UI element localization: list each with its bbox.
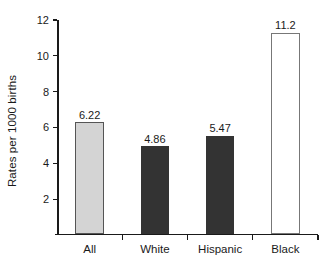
- bar: 6.22: [75, 122, 104, 233]
- x-axis-category-label: All: [83, 244, 96, 256]
- bar-value-label: 4.86: [144, 134, 165, 145]
- x-axis-tick: [252, 235, 253, 240]
- y-axis-tick-label: 6: [43, 122, 49, 133]
- y-axis-tick-label: 4: [43, 158, 49, 169]
- x-axis-category-label: Black: [271, 244, 299, 256]
- x-axis-tick: [122, 235, 123, 240]
- y-axis-line: [57, 20, 59, 235]
- bar-value-label: 11.2: [275, 20, 296, 31]
- plot-area: 24681012 6.224.865.4711.2 AllWhiteHispan…: [57, 20, 318, 235]
- y-axis-tick: 12: [53, 19, 58, 20]
- x-axis-tick: [187, 235, 188, 240]
- bar-chart: Rates per 1000 births 24681012 6.224.865…: [0, 0, 333, 262]
- y-axis-tick: 10: [53, 55, 58, 56]
- x-axis-tick: [317, 235, 318, 240]
- y-axis-tick: 4: [53, 163, 58, 164]
- y-axis-tick-label: 2: [43, 194, 49, 205]
- y-axis-tick-label: 12: [37, 15, 49, 26]
- bar-value-label: 5.47: [209, 123, 230, 134]
- y-axis-title: Rates per 1000 births: [0, 0, 24, 262]
- bar-value-label: 6.22: [79, 110, 100, 121]
- y-axis-tick: 8: [53, 91, 58, 92]
- bar: 11.2: [271, 33, 300, 234]
- y-axis-tick: 2: [53, 199, 58, 200]
- y-axis-tick: 6: [53, 127, 58, 128]
- y-axis-tick-label: 10: [37, 50, 49, 61]
- bar: 5.47: [206, 136, 235, 234]
- y-axis-tick-label: 8: [43, 86, 49, 97]
- bar: 4.86: [141, 146, 170, 233]
- x-axis-category-label: Hispanic: [198, 244, 242, 256]
- x-axis-category-label: White: [140, 244, 169, 256]
